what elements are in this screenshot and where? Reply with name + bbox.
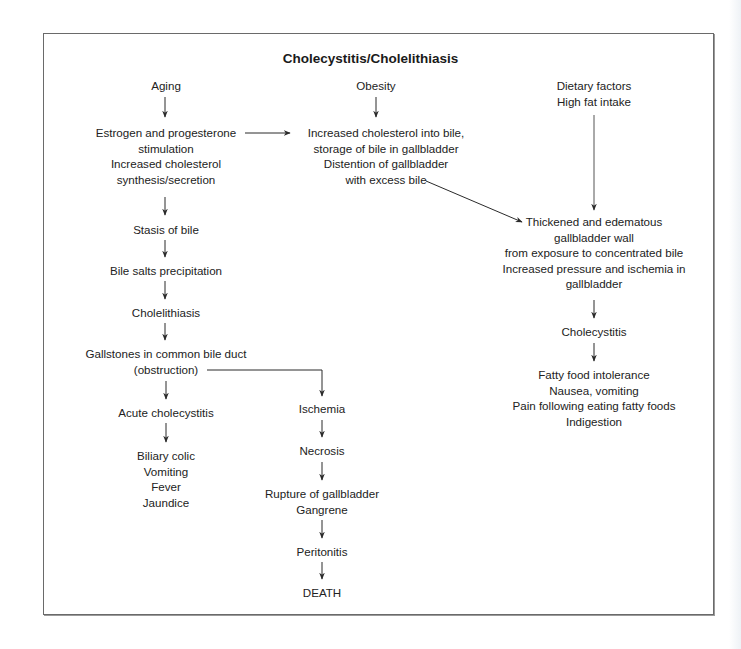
node-thickened-wall: Thickened and edematous gallbladder wall…: [494, 214, 694, 292]
node-aging: Aging: [106, 78, 226, 94]
node-necrosis: Necrosis: [272, 443, 372, 459]
node-gallstones: Gallstones in common bile duct (obstruct…: [66, 346, 266, 377]
page-edge: [729, 0, 741, 649]
node-dietary-factors: Dietary factors High fat intake: [534, 78, 654, 109]
node-cholelithiasis: Cholelithiasis: [106, 305, 226, 321]
node-acute-cholecystitis: Acute cholecystitis: [96, 405, 236, 421]
node-rupture: Rupture of gallbladder Gangrene: [252, 486, 392, 517]
node-estrogen: Estrogen and progesterone stimulation In…: [76, 125, 256, 187]
node-obesity: Obesity: [316, 78, 436, 94]
node-cholecystitis-symptoms: Fatty food intolerance Nausea, vomiting …: [504, 367, 684, 429]
node-bile-salts: Bile salts precipitation: [86, 263, 246, 279]
node-death: DEATH: [272, 585, 372, 601]
node-ischemia: Ischemia: [272, 401, 372, 417]
node-cholecystitis: Cholecystitis: [534, 324, 654, 340]
node-peritonitis: Peritonitis: [272, 544, 372, 560]
node-acute-symptoms: Biliary colic Vomiting Fever Jaundice: [106, 448, 226, 510]
node-stasis: Stasis of bile: [106, 222, 226, 238]
diagram-title: Cholecystitis/Cholelithiasis: [0, 51, 741, 66]
node-increased-cholesterol: Increased cholesterol into bile, storage…: [291, 125, 481, 187]
